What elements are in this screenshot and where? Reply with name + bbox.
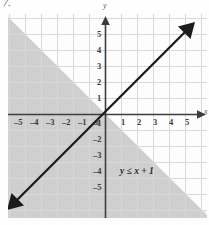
y-tick-label-5: 5	[97, 29, 101, 39]
x-tick-label-5: 5	[185, 117, 189, 127]
y-tick-label--4: –4	[93, 166, 102, 176]
x-tick-label-4: 4	[169, 117, 173, 127]
x-tick-label--5: –5	[14, 117, 23, 127]
x-tick-label--4: –4	[30, 117, 39, 127]
x-tick-label--1: –1	[78, 117, 87, 127]
y-tick-label-3: 3	[97, 61, 101, 71]
inequality-label: y ≤ x + 1	[120, 166, 154, 176]
y-tick-label--5: –5	[93, 182, 102, 192]
y-tick-label-1: 1	[97, 93, 101, 103]
x-tick-label-3: 3	[153, 117, 157, 127]
y-tick-label--1: –1	[93, 118, 102, 128]
x-axis-letter: x	[204, 107, 208, 116]
y-tick-label--3: –3	[93, 150, 102, 160]
graph-figure: 7.	[0, 0, 209, 225]
y-tick-label-2: 2	[97, 77, 101, 87]
x-tick-label-2: 2	[137, 117, 141, 127]
y-tick-label-4: 4	[97, 45, 101, 55]
coordinate-plane-svg	[8, 14, 207, 218]
y-tick-label--2: –2	[93, 134, 102, 144]
problem-number: 7.	[3, 0, 11, 8]
coordinate-plane	[8, 14, 207, 218]
x-tick-label--2: –2	[62, 117, 71, 127]
x-tick-label--3: –3	[46, 117, 55, 127]
y-axis-letter: y	[103, 1, 107, 10]
x-tick-label-1: 1	[121, 117, 125, 127]
